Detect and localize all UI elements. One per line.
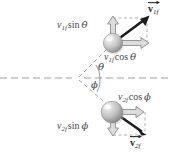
label-v2f-cos-phi-angle: ϕ: [144, 91, 151, 102]
particle-2-sphere: [101, 101, 124, 124]
label-v2f-vector: v2f: [130, 138, 140, 150]
label-v1f-vector-sub: 1f: [153, 8, 158, 16]
label-v2f-vector-var: v: [130, 137, 135, 148]
label-v1f-sin-theta-fn: sin: [68, 19, 80, 30]
label-v2f-cos-phi-fn: cos: [129, 91, 142, 102]
label-v1f-vector-var: v: [148, 3, 153, 14]
collision-vector-diagram: v1f sin θ v1f cos θ v2f cos ϕ v2f sin ϕ …: [0, 0, 170, 155]
label-v2f-sin-phi: v2f sin ϕ: [57, 121, 88, 133]
label-v1f-cos-theta: v1f cos θ: [104, 52, 136, 64]
label-v1f-cos-theta-angle: θ: [130, 51, 136, 62]
label-phi-angle: ϕ: [91, 80, 98, 90]
label-v2f-sin-phi-fn: sin: [68, 120, 80, 131]
label-v1f-vector: v1f: [148, 4, 158, 16]
label-v1f-sin-theta-angle: θ: [81, 19, 87, 30]
label-v2f-cos-phi: v2f cos ϕ: [118, 92, 151, 104]
label-v1f-sin-theta: v1f sin θ: [57, 20, 87, 32]
label-v2f-vector-sub: 2f: [135, 142, 140, 150]
label-v2f-sin-phi-angle: ϕ: [81, 120, 88, 131]
vector-arrow-accent-icon: [148, 0, 154, 4]
label-v1f-cos-theta-fn: cos: [115, 51, 128, 62]
vector-arrow-accent-icon: [130, 134, 136, 138]
label-theta-angle: θ: [98, 62, 104, 72]
